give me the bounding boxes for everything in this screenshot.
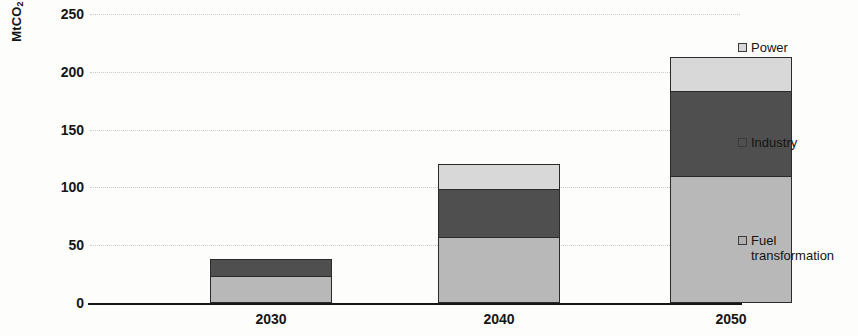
y-tick-label-50: 50: [40, 237, 84, 253]
y-tick-label-150: 150: [40, 122, 84, 138]
chart-legend: PowerIndustryFuel transformation: [738, 0, 858, 336]
y-tick-label-100: 100: [40, 179, 84, 195]
y-tick-label-250: 250: [40, 6, 84, 22]
legend-swatch-industry-icon: [738, 138, 747, 147]
gridline-200: [90, 72, 740, 73]
stacked-bar-chart: MtCO2 050100150200250 203020402050 Power…: [0, 0, 858, 336]
bar-segment-fuel-transformation-2030[interactable]: [210, 276, 332, 303]
gridline-50: [90, 245, 740, 246]
plot-area: [90, 14, 740, 303]
bar-segment-industry-2040[interactable]: [438, 189, 560, 238]
bar-group-2040[interactable]: [438, 14, 560, 303]
gridline-100: [90, 187, 740, 188]
y-axis-title-subscript: 2: [15, 1, 25, 6]
y-axis-title: MtCO2: [2, 14, 30, 114]
bar-segment-fuel-transformation-2040[interactable]: [438, 237, 560, 303]
x-tick-label-2040: 2040: [438, 311, 560, 327]
legend-label: Industry: [751, 135, 797, 150]
legend-label: Power: [751, 40, 788, 55]
bar-segment-power-2040[interactable]: [438, 164, 560, 188]
bar-stack: [210, 259, 332, 303]
x-axis-baseline: [88, 303, 742, 305]
y-axis-tick-labels: 050100150200250: [34, 14, 84, 303]
bar-stack: [438, 164, 560, 303]
bar-group-2030[interactable]: [210, 14, 332, 303]
x-tick-label-2030: 2030: [210, 311, 332, 327]
legend-swatch-power-icon: [738, 43, 747, 52]
gridline-150: [90, 130, 740, 131]
legend-entry-power[interactable]: Power: [738, 40, 788, 55]
bar-segment-industry-2030[interactable]: [210, 259, 332, 276]
y-tick-label-0: 0: [40, 295, 84, 311]
y-tick-label-200: 200: [40, 64, 84, 80]
legend-swatch-fuel-icon: [738, 236, 747, 245]
y-axis-title-text: MtCO: [9, 6, 24, 41]
legend-entry-industry[interactable]: Industry: [738, 135, 797, 150]
gridline-250: [90, 14, 740, 15]
legend-entry-fuel[interactable]: Fuel transformation: [738, 233, 834, 263]
legend-label: Fuel transformation: [751, 233, 834, 263]
